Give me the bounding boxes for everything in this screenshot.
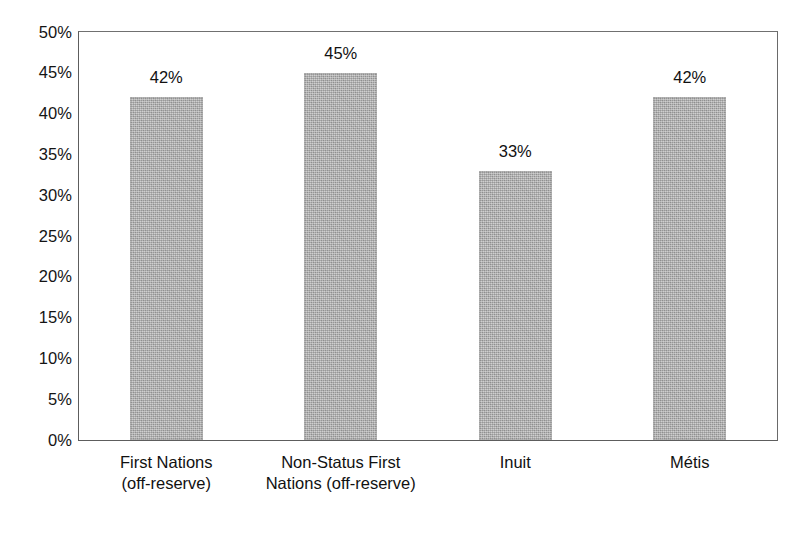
y-axis-tick-label: 35% [18, 146, 72, 163]
y-axis-tick-label: 20% [18, 268, 72, 285]
bar-value-label: 45% [281, 45, 401, 62]
y-axis-tick-label: 25% [18, 228, 72, 245]
bar[interactable] [479, 171, 552, 440]
y-axis-tick-label: 10% [18, 350, 72, 367]
bar-value-label: 33% [455, 143, 575, 160]
bar[interactable] [653, 97, 726, 440]
bar[interactable] [304, 73, 377, 440]
bar-value-label: 42% [630, 69, 750, 86]
bar-value-label: 42% [106, 69, 226, 86]
y-axis-tick-label: 30% [18, 187, 72, 204]
x-axis-category-label-line: Métis [580, 452, 800, 473]
y-axis-tick-label: 50% [18, 24, 72, 41]
y-axis-tick-label: 0% [18, 432, 72, 449]
x-axis-category-label-line: Nations (off-reserve) [231, 473, 451, 494]
y-axis-tick-label: 15% [18, 309, 72, 326]
y-axis-tick-label: 45% [18, 64, 72, 81]
y-axis-tick-label: 40% [18, 105, 72, 122]
bar[interactable] [130, 97, 203, 440]
x-axis-category-label: Métis [580, 452, 800, 473]
y-axis-tick-label: 5% [18, 391, 72, 408]
bar-chart-figure: 50%45%40%35%30%25%20%15%10%5%0% 42%First… [0, 0, 806, 536]
plot-area [79, 32, 777, 440]
